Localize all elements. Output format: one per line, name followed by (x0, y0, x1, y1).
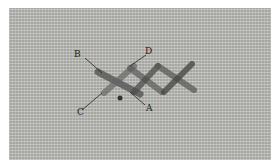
label-c: C (77, 108, 84, 117)
label-d: D (145, 47, 152, 56)
cross-stitches (98, 64, 194, 101)
label-a: A (146, 104, 153, 113)
stitch-illustration (0, 0, 280, 168)
label-b: B (74, 50, 81, 59)
